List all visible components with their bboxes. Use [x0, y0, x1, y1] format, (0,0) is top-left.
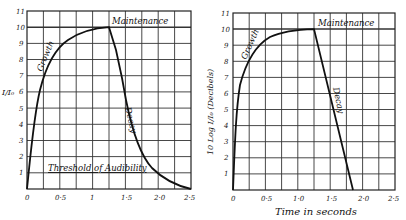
y-tick: 11: [221, 10, 230, 18]
x-tick: 1: [90, 194, 94, 202]
x-tick: 0·5: [261, 195, 273, 203]
y-tick: 6: [224, 90, 229, 98]
right-y-ticks: 1 2 3 4 5 6 7 8 9 10 11: [221, 10, 230, 178]
y-tick: 5: [224, 106, 229, 114]
threshold-label: Threshold of Audibility: [48, 163, 147, 173]
chart-canvas: 1 2 3 4 5 6 7 8 9 10 11 0 0·5 1 1·5 2·0 …: [0, 0, 406, 220]
y-tick: 4: [18, 121, 23, 129]
y-tick: 3: [224, 138, 229, 146]
x-tick: 1·0: [293, 195, 305, 203]
x-tick: 1·5: [121, 194, 133, 202]
x-tick: 0·5: [55, 194, 67, 202]
right-x-axis-label: Time in seconds: [275, 206, 357, 217]
right-chart: 1 2 3 4 5 6 7 8 9 10 11 0 0·5 1·0 1·5 2·…: [206, 10, 400, 217]
y-tick: 2: [223, 154, 229, 162]
y-tick: 7: [224, 74, 229, 82]
x-tick: 2·0: [357, 195, 370, 203]
y-tick: 9: [224, 42, 229, 50]
y-tick: 1: [224, 170, 228, 178]
y-tick: 8: [19, 56, 24, 64]
right-growth-label: Growth: [239, 27, 261, 60]
y-tick: 8: [224, 58, 229, 66]
y-tick: 10: [16, 24, 25, 32]
y-tick: 11: [16, 8, 25, 16]
left-x-ticks: 0 0·5 1 1·5 2·0 2·5: [25, 194, 196, 202]
y-tick: 1: [19, 169, 23, 177]
x-tick: 2·0: [153, 194, 166, 202]
left-y-ticks: 1 2 3 4 5 6 7 8 9 10 11: [16, 8, 25, 177]
right-grid: [233, 13, 395, 190]
left-chart: 1 2 3 4 5 6 7 8 9 10 11 0 0·5 1 1·5 2·0 …: [1, 8, 196, 202]
x-tick: 0: [231, 195, 236, 203]
left-y-axis-label: I/I₀: [1, 88, 15, 97]
y-tick: 6: [19, 88, 24, 96]
x-tick: 2·5: [183, 194, 196, 202]
y-tick: 10: [221, 26, 230, 34]
right-maintenance-label: Maintenance: [317, 18, 374, 28]
x-tick: 2·5: [387, 195, 400, 203]
y-tick: 4: [223, 122, 228, 130]
y-tick: 2: [18, 153, 24, 161]
y-tick: 9: [19, 40, 24, 48]
right-x-ticks: 0 0·5 1·0 1·5 2·0 2·5: [231, 195, 400, 203]
x-tick: 0: [25, 194, 30, 202]
right-y-axis-label: 10 Log I/I₀ (Decibels): [206, 69, 215, 155]
left-maintenance-label: Maintenance: [111, 16, 168, 26]
y-tick: 5: [19, 105, 24, 113]
x-tick: 1·5: [326, 195, 338, 203]
y-tick: 7: [19, 72, 24, 80]
y-tick: 3: [19, 137, 24, 145]
